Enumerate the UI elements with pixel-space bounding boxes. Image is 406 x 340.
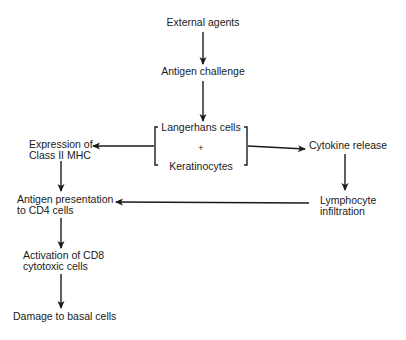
node-langerhans-cells: Langerhans cells xyxy=(158,122,244,133)
arrow-to-cytokine xyxy=(248,146,305,149)
node-keratinocytes: Keratinocytes xyxy=(158,161,244,172)
node-external-agents: External agents xyxy=(153,17,253,28)
arrow-lymphocyte-to-presentation xyxy=(116,202,309,203)
plus-sign: + xyxy=(158,143,244,154)
node-lymphocyte-infiltration: Lymphocyte infiltration xyxy=(320,195,376,217)
node-activation-cd8: Activation of CD8 cytotoxic cells xyxy=(23,250,104,272)
node-cytokine-release: Cytokine release xyxy=(309,140,387,151)
activation-line-2: cytotoxic cells xyxy=(23,261,104,272)
presentation-line-2: to CD4 cells xyxy=(17,205,113,216)
expression-line-2: Class II MHC xyxy=(29,150,93,161)
bracket-right xyxy=(244,127,247,165)
lymphocyte-line-2: infiltration xyxy=(320,206,376,217)
node-expression-class-ii-mhc: Expression of Class II MHC xyxy=(29,139,93,161)
node-antigen-challenge: Antigen challenge xyxy=(153,66,253,77)
node-antigen-presentation: Antigen presentation to CD4 cells xyxy=(17,194,113,216)
node-damage-basal-cells: Damage to basal cells xyxy=(13,311,116,322)
